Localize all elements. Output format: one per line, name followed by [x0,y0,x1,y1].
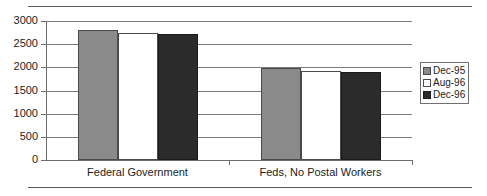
bar [158,34,198,160]
legend-swatch-icon [423,91,431,99]
legend-item-label: Aug-96 [433,78,465,88]
y-axis-tick-label: 1500 [0,85,38,96]
y-axis-tick-label: 2500 [0,38,38,49]
legend-item: Dec-96 [423,89,465,101]
y-axis-tick-label: 3000 [0,15,38,26]
legend-item: Dec-95 [423,65,465,77]
plot-area [46,21,412,160]
x-axis-end-tick [412,160,413,165]
y-axis-tick-label: 500 [0,131,38,142]
x-axis-category-separator [229,160,230,165]
x-axis-category-label: Federal Government [46,166,229,179]
legend-item: Aug-96 [423,77,465,89]
legend-item-label: Dec-95 [433,66,465,76]
y-axis-tick-label: 2000 [0,61,38,72]
bar [301,71,341,160]
legend-swatch-icon [423,67,431,75]
bar [78,30,118,160]
bar [118,33,158,160]
legend-swatch-icon [423,79,431,87]
bar [341,72,381,160]
chart-figure: 050010001500200025003000 Federal Governm… [0,0,487,196]
top-divider-rule [28,6,472,7]
y-axis-tick-label: 0 [0,154,38,165]
y-axis-tick-label: 1000 [0,108,38,119]
bar [261,68,301,160]
y-axis-tick [41,160,46,161]
chart-legend: Dec-95 Aug-96 Dec-96 [420,62,469,104]
x-axis-category-label: Feds, No Postal Workers [229,166,412,179]
legend-item-label: Dec-96 [433,90,465,100]
bottom-divider-rule [28,187,472,188]
